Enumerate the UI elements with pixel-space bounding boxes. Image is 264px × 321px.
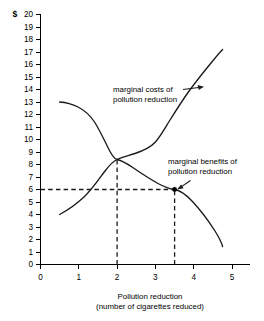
x-tick-label-4: 4 — [191, 273, 196, 282]
marginal-cost-label-line1: marginal costs of — [113, 85, 173, 94]
marginal-benefit-label-line2: pollution reduction — [168, 167, 232, 176]
y-tick-marks — [36, 15, 41, 265]
chart-container: 0 1 2 3 4 5 6 7 8 9 10 11 12 13 14 15 16… — [0, 0, 264, 321]
y-tick-label-10: 10 — [24, 135, 34, 144]
y-tick-label-3: 3 — [28, 223, 33, 232]
y-tick-label-13: 13 — [24, 98, 34, 107]
y-tick-label-20: 20 — [24, 10, 34, 19]
y-tick-label-11: 11 — [25, 123, 34, 132]
y-tick-label-12: 12 — [24, 110, 34, 119]
y-tick-label-7: 7 — [28, 173, 33, 182]
marginal-benefit-label-line1: marginal benefits of — [168, 157, 238, 166]
y-tick-label-8: 8 — [28, 160, 33, 169]
economics-line-chart: 0 1 2 3 4 5 6 7 8 9 10 11 12 13 14 15 16… — [0, 0, 264, 321]
y-tick-label-6: 6 — [28, 185, 33, 194]
marginal-cost-label-line2: pollution reduction — [113, 95, 177, 104]
y-tick-label-1: 1 — [28, 248, 33, 257]
x-axis-caption-line1: Pollution reduction — [118, 292, 183, 301]
y-tick-label-16: 16 — [24, 60, 34, 69]
x-tick-label-5: 5 — [230, 273, 235, 282]
x-tick-label-0: 0 — [38, 273, 43, 282]
y-tick-label-18: 18 — [24, 35, 34, 44]
y-tick-label-15: 15 — [24, 73, 34, 82]
y-tick-label-2: 2 — [28, 235, 33, 244]
y-tick-label-19: 19 — [24, 23, 34, 32]
y-tick-label-0: 0 — [28, 260, 33, 269]
x-axis-caption-line2: (number of cigarettes reduced) — [96, 302, 204, 311]
y-axis-unit-label: $ — [13, 9, 18, 19]
x-tick-label-2: 2 — [115, 273, 120, 282]
y-tick-label-17: 17 — [24, 48, 34, 57]
y-tick-label-14: 14 — [24, 85, 34, 94]
y-tick-label-9: 9 — [28, 148, 33, 157]
y-tick-label-4: 4 — [28, 210, 33, 219]
y-tick-label-5: 5 — [28, 198, 33, 207]
x-tick-label-1: 1 — [77, 273, 82, 282]
x-tick-label-3: 3 — [153, 273, 158, 282]
marginal-benefit-point-marker — [172, 187, 177, 192]
